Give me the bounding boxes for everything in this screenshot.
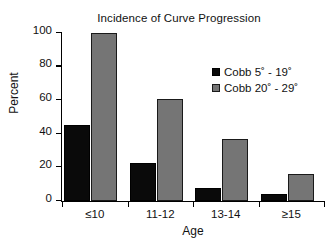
- x-category-label: ≥15: [259, 208, 325, 220]
- bar: [261, 194, 287, 201]
- legend-item: Cobb 5˚ - 19˚: [212, 64, 298, 80]
- x-tick: [324, 201, 325, 207]
- y-axis-line: [61, 33, 62, 202]
- chart-title: Incidence of Curve Progression: [0, 12, 334, 24]
- y-tick-label: 60: [39, 91, 52, 103]
- y-tick-label: 0: [46, 192, 52, 204]
- legend-swatch-icon: [212, 68, 220, 76]
- y-tick-label: 100: [33, 24, 52, 36]
- chart-legend: Cobb 5˚ - 19˚Cobb 20˚ - 29˚: [212, 64, 298, 96]
- x-axis-label: Age: [62, 224, 324, 238]
- x-category-label: 11-12: [128, 208, 194, 220]
- bar: [130, 163, 156, 201]
- x-tick: [62, 201, 63, 207]
- legend-label: Cobb 5˚ - 19˚: [224, 64, 292, 80]
- y-axis-label: Percent: [7, 53, 21, 133]
- legend-item: Cobb 20˚ - 29˚: [212, 80, 298, 96]
- y-tick: 60: [56, 99, 62, 100]
- legend-label: Cobb 20˚ - 29˚: [224, 80, 298, 96]
- legend-swatch-icon: [212, 84, 220, 92]
- x-category-label: 13-14: [193, 208, 259, 220]
- x-tick: [128, 201, 129, 207]
- bar: [157, 99, 183, 201]
- y-tick: 100: [56, 32, 62, 33]
- y-tick-label: 20: [39, 158, 52, 170]
- bar: [222, 139, 248, 201]
- x-tick: [193, 201, 194, 207]
- y-tick: 20: [56, 166, 62, 167]
- x-tick: [259, 201, 260, 207]
- chart-container: Incidence of Curve Progression Percent 0…: [0, 0, 334, 247]
- bar: [288, 174, 314, 201]
- bar: [64, 125, 90, 201]
- y-tick: 40: [56, 133, 62, 134]
- y-tick: 80: [56, 65, 62, 66]
- y-tick-label: 40: [39, 125, 52, 137]
- y-tick-label: 80: [39, 57, 52, 69]
- bar: [91, 33, 117, 201]
- x-category-label: ≤10: [62, 208, 128, 220]
- plot-area: 020406080100 ≤1011-1213-14≥15: [62, 33, 324, 201]
- bar: [195, 188, 221, 201]
